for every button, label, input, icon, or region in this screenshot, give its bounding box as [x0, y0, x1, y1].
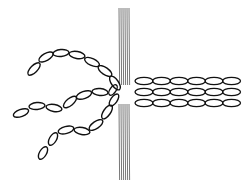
chain-bead [53, 49, 70, 57]
chain-bead [223, 77, 241, 84]
chain-bead [153, 99, 171, 106]
chain-bead [36, 145, 49, 161]
chain-bead [135, 88, 153, 95]
barrier-line [123, 104, 124, 180]
chain-bead [29, 102, 46, 110]
chain-bead [57, 125, 74, 136]
chain-bead [135, 77, 153, 84]
chain-bead [92, 88, 109, 96]
bottom-straight-chain [135, 99, 241, 106]
chain-bead [69, 50, 86, 60]
barrier-line [121, 104, 122, 180]
chain-bead [75, 89, 92, 101]
chain-bead [12, 107, 29, 119]
chain-bead [87, 118, 104, 133]
chain-bead [74, 126, 91, 136]
upper-curved-chain [26, 49, 123, 92]
lower-curved-chain [36, 92, 120, 160]
barrier-line [119, 8, 120, 85]
chain-bead [135, 99, 153, 106]
barrier-line [127, 8, 128, 85]
chain-bead [188, 88, 206, 95]
chain-bead [205, 99, 223, 106]
barrier-upper-segment [119, 8, 130, 85]
chain-bead [46, 131, 59, 147]
chain-bead [170, 77, 188, 84]
barrier-line [127, 104, 128, 180]
chain-bead [223, 99, 241, 106]
barrier-line [125, 104, 126, 180]
chain-bead [170, 99, 188, 106]
barrier-line [123, 8, 124, 85]
chain-bead [205, 77, 223, 84]
disordered-chains [12, 49, 122, 161]
barrier-lower-segment [119, 104, 130, 180]
chain-bead [26, 61, 42, 77]
barrier-line [125, 8, 126, 85]
chain-bead [46, 103, 63, 113]
chain-bead [37, 50, 54, 64]
chain-bead [223, 88, 241, 95]
barrier-line [129, 8, 130, 85]
chain-bead [153, 77, 171, 84]
chain-bead [205, 88, 223, 95]
chain-bead [188, 99, 206, 106]
vertical-barrier [119, 8, 130, 180]
middle-straight-chain [135, 88, 241, 95]
barrier-line [119, 104, 120, 180]
aligned-chains [135, 77, 241, 106]
chain-bead [153, 88, 171, 95]
chain-barrier-diagram [0, 0, 248, 187]
top-straight-chain [135, 77, 241, 84]
barrier-line [121, 8, 122, 85]
barrier-line [129, 104, 130, 180]
diagram-canvas [0, 0, 248, 187]
chain-bead [170, 88, 188, 95]
chain-bead [188, 77, 206, 84]
